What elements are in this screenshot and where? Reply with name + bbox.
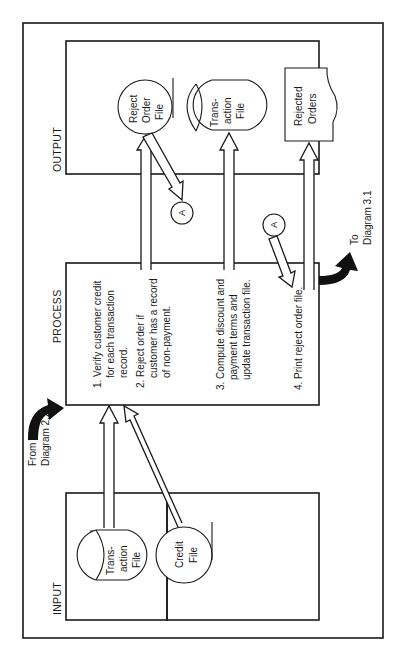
- svg-text:action: action: [118, 545, 129, 572]
- svg-text:File: File: [235, 102, 246, 119]
- connector-a-1: A: [171, 202, 193, 224]
- output-label: OUTPUT: [51, 127, 63, 172]
- svg-text:Order: Order: [141, 97, 152, 123]
- svg-text:Credit: Credit: [174, 541, 185, 568]
- svg-text:Trans-: Trans-: [209, 98, 220, 127]
- input-label: INPUT: [51, 582, 63, 615]
- svg-text:Rejected: Rejected: [293, 87, 304, 126]
- process-step-1-line-1: 1. Verify customer credit: [92, 281, 103, 388]
- svg-text:File: File: [131, 551, 142, 568]
- svg-text:Reject: Reject: [128, 94, 139, 123]
- arrow-from-credit-file: [124, 406, 182, 527]
- input-transaction-file: Trans- action File: [77, 530, 147, 580]
- connector-a-2: A: [263, 214, 285, 236]
- svg-text:A: A: [176, 209, 187, 216]
- process-step-1-line-2: for each transaction: [105, 290, 116, 378]
- process-step-2-line-3: of non-payment.: [161, 306, 172, 378]
- process-step-2-line-1: 2. Reject order if: [135, 314, 146, 388]
- output-box: [66, 41, 319, 174]
- reject-order-file: Reject Order File: [118, 78, 173, 134]
- rejected-orders-document: Rejected Orders: [285, 68, 337, 141]
- process-label: PROCESS: [51, 290, 63, 343]
- svg-text:Diagram 3.1: Diagram 3.1: [362, 190, 373, 245]
- process-step-1-line-3: record.: [118, 347, 129, 378]
- hipo-diagram: OUTPUT PROCESS INPUT Reject Order File T…: [0, 0, 401, 659]
- process-step-3-line-2: payment terms and: [228, 294, 239, 380]
- svg-text:A: A: [268, 221, 279, 228]
- arrow-from-connector-a: [269, 236, 295, 287]
- arrow-to-rejected-orders: [300, 143, 318, 290]
- svg-text:To: To: [349, 234, 360, 245]
- svg-text:File: File: [154, 103, 165, 120]
- svg-text:action: action: [222, 97, 233, 124]
- process-steps: 1. Verify customer credit for each trans…: [92, 279, 304, 391]
- svg-text:From: From: [27, 443, 38, 466]
- process-step-4-line-1: 4. Print reject order file.: [293, 287, 304, 390]
- arrow-from-input-transaction-file: [100, 406, 118, 528]
- arrow-to-reject-order-file: [137, 135, 155, 270]
- svg-text:Orders: Orders: [307, 93, 318, 124]
- process-box: [66, 263, 319, 405]
- to-diagram-note: To Diagram 3.1: [319, 190, 373, 285]
- svg-text:File: File: [188, 546, 199, 563]
- output-transaction-file: Trans- action File: [187, 80, 267, 131]
- curved-arrow-out-icon: [319, 252, 358, 285]
- from-diagram-note: From Diagram 2.2: [27, 398, 64, 466]
- process-step-3-line-3: update transaction file.: [241, 279, 252, 380]
- svg-text:Diagram 2.2: Diagram 2.2: [40, 411, 51, 466]
- process-step-3-line-1: 3. Compute discount and: [215, 279, 226, 390]
- credit-file: Credit File: [156, 522, 212, 583]
- process-step-2-line-2: customer has a record: [148, 279, 159, 379]
- svg-text:Trans-: Trans-: [105, 546, 116, 575]
- arrow-to-output-transaction-file: [220, 133, 238, 270]
